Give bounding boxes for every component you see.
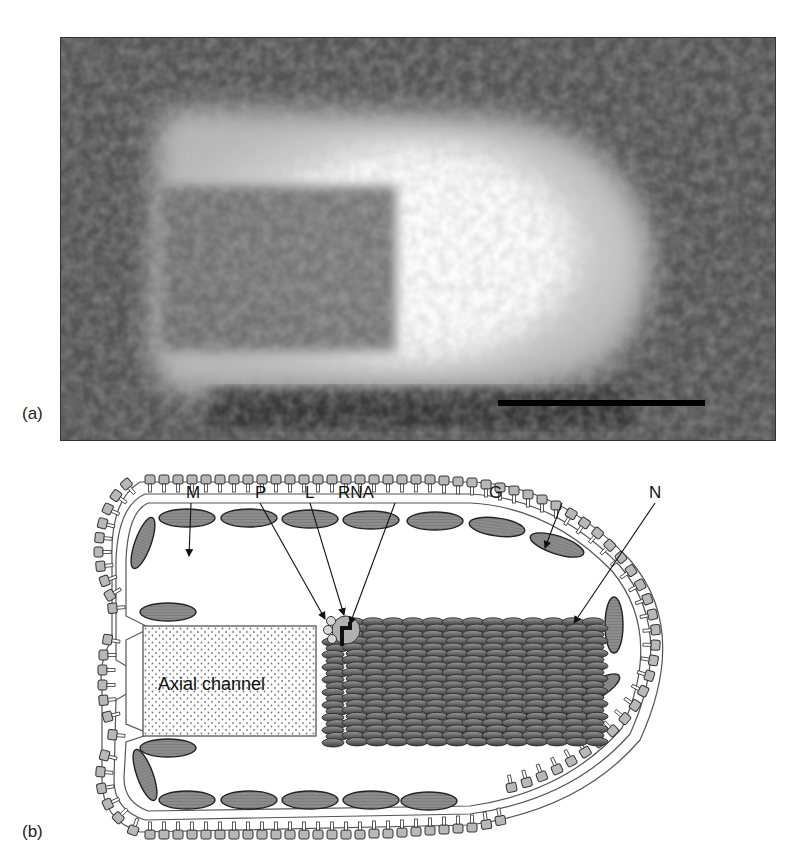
svg-text:N: N [649, 483, 661, 502]
axial-channel-label: Axial channel [158, 674, 265, 694]
scale-bar [498, 400, 705, 406]
virion-schematic: Axial channel M P L RNA G N [0, 450, 793, 860]
axial-channel: Axial channel [143, 626, 316, 736]
electron-micrograph [60, 37, 776, 441]
panel-a-label: (a) [22, 404, 43, 424]
micrograph-image [61, 38, 776, 441]
polymerase-complex [324, 616, 361, 646]
panel-b-label: (b) [22, 822, 43, 842]
n-nucleocapsid [322, 618, 608, 747]
svg-text:M: M [186, 483, 200, 502]
svg-text:G: G [489, 483, 502, 502]
svg-text:RNA: RNA [338, 483, 375, 502]
svg-text:P: P [255, 483, 266, 502]
svg-text:L: L [305, 483, 314, 502]
